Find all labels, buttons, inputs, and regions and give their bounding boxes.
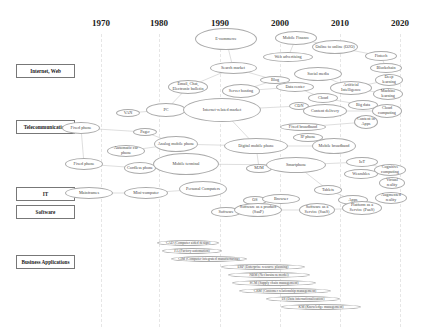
- business-app-node: CIM (Computer integrated manufacturing): [171, 256, 247, 262]
- category-label: Software: [16, 205, 75, 219]
- business-app-node: ERP (Enterprise resource planning): [221, 264, 305, 270]
- node-cordless: Cordless phone: [124, 162, 156, 174]
- category-label: Internet, Web: [16, 64, 75, 78]
- node-search-market: Search market: [210, 62, 257, 74]
- node-mobile-finance: Mobile Finance: [275, 31, 317, 45]
- node-auto-car-phone: Automatic car phone: [107, 145, 145, 157]
- node-machine-learning: Machine learning: [373, 88, 403, 100]
- node-paas: Platform as a Service (PaaS): [342, 201, 382, 215]
- node-o2o: Online to online (O2O): [312, 40, 358, 54]
- node-email: Email, Chat, Electronic bulletin: [168, 80, 208, 94]
- node-fixed-phone-1: Fixed phone: [62, 122, 100, 134]
- node-smartphone: Smartphone: [266, 157, 326, 173]
- node-server-hosting: Server hosting: [222, 84, 260, 98]
- node-wearables: Wearables: [344, 169, 378, 179]
- node-mainframes: Mainframes: [65, 187, 113, 199]
- node-fixed-phone-2: Fixed phone: [65, 158, 103, 170]
- node-blockchain: Blockchain: [370, 63, 402, 73]
- business-app-node: KM (Knowledge management): [281, 304, 361, 310]
- node-cloud-computing: Cloud computing: [372, 104, 402, 118]
- node-pc: PC: [146, 103, 186, 117]
- node-mobile-broadband: Mobile broadband: [312, 138, 356, 154]
- business-app-node: DI (Data internationalization): [266, 296, 340, 302]
- node-internet-market: Internet-related market: [183, 98, 261, 122]
- node-iot: IoT: [346, 157, 378, 167]
- node-fixed-broadband: Fixed broadband: [280, 123, 326, 131]
- business-app-node: SCM (Supply chain management): [232, 280, 316, 286]
- node-browser: Browser: [262, 194, 300, 204]
- node-saas: Software as a Service (SaaS): [299, 203, 335, 217]
- node-augmented-reality: Augmented reality: [375, 192, 407, 204]
- node-fintech: Fintech: [365, 51, 397, 61]
- node-content-apps: Content in Apps: [354, 115, 378, 129]
- category-label: Business Applications: [16, 255, 75, 269]
- business-app-node: CAD (Computer aided design): [157, 240, 219, 246]
- node-web-ad: Web advertising: [263, 52, 313, 62]
- node-social-media: Social media: [294, 67, 342, 81]
- node-ecommerce: E-commerce: [195, 28, 257, 50]
- node-personal-computers: Personal Computers: [179, 181, 227, 197]
- node-tablets: Tablets: [314, 185, 342, 195]
- node-ai: Artificial Intelligence: [330, 81, 372, 95]
- node-data-center: Data center: [276, 82, 314, 92]
- node-cognitive: Cognitive computing: [374, 164, 406, 176]
- node-content-delivery: Content delivery: [303, 104, 347, 118]
- node-cloud: Cloud: [308, 93, 338, 103]
- node-digital-mobile: Digital mobile phone: [224, 138, 288, 154]
- node-mobile-terminal: Mobile terminal: [153, 153, 219, 175]
- business-app-node: FA (Factory automation): [162, 248, 222, 254]
- business-app-node: CRM (Customer relationship management): [239, 288, 331, 294]
- node-mini-computer: Mini-computer: [124, 187, 168, 199]
- node-analog-mobile: Analog mobile phone: [154, 136, 198, 152]
- business-app-node: NBM (Net business model): [228, 272, 310, 278]
- node-software-product: Software as a product (SaaP): [234, 203, 282, 217]
- node-deep-learning: Deep learning: [375, 74, 403, 86]
- node-virtual-reality: Virtual reality: [379, 177, 405, 189]
- node-van: VAN: [116, 109, 140, 117]
- node-pager: Pager: [133, 128, 157, 136]
